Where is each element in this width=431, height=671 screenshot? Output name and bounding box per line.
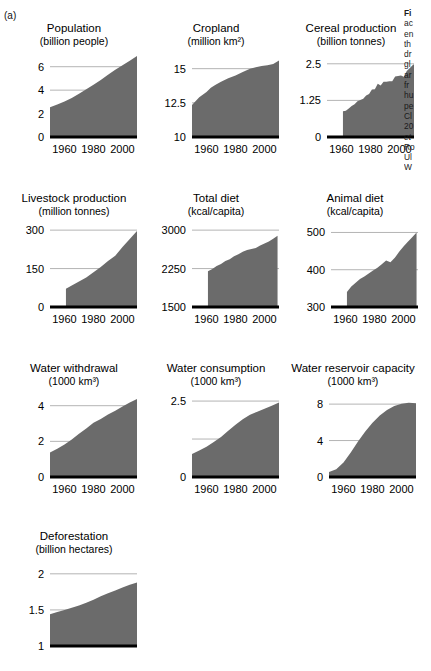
y-tick-label: 3000: [162, 224, 186, 236]
x-tick-label: 2000: [110, 143, 134, 155]
chart-subtitle: (1000 km³): [4, 375, 144, 387]
chart-livestock-production: Livestock production (million tonnes) 01…: [4, 192, 144, 329]
y-tick-label: 2.5: [171, 395, 186, 407]
chart-population: Population (billion people) 024619601980…: [4, 22, 144, 159]
x-tick-label: 1960: [194, 313, 218, 325]
caption-line: hu: [404, 90, 431, 100]
chart-title: Water consumption: [146, 362, 286, 375]
area-series: [50, 582, 137, 646]
chart-title: Deforestation: [4, 530, 144, 543]
y-tick-label: 1.5: [29, 604, 44, 616]
plot-area: 048196019802000: [283, 387, 423, 499]
y-tick-label: 4: [38, 84, 44, 96]
y-tick-label: 150: [26, 263, 44, 275]
y-tick-label: 2: [38, 435, 44, 447]
chart-title: Cropland: [146, 22, 286, 35]
y-tick-label: 400: [307, 264, 325, 276]
chart-svg: 0150300196019802000: [4, 217, 144, 329]
chart-subtitle: (billion hectares): [4, 543, 144, 555]
plot-area: 1012.515196019802000: [146, 47, 286, 159]
chart-title: Animal diet: [285, 192, 425, 205]
chart-subtitle: (million km²): [146, 35, 286, 47]
caption-line: W: [404, 162, 431, 172]
y-tick-label: 6: [38, 61, 44, 73]
chart-subtitle: (1000 km³): [146, 375, 286, 387]
caption-line: ac: [404, 18, 431, 28]
y-tick-label: 0: [317, 471, 323, 483]
chart-subtitle: (billion tonnes): [281, 35, 421, 47]
x-tick-label: 1960: [194, 143, 218, 155]
chart-title: Water reservoir capacity: [283, 362, 423, 375]
y-tick-label: 2.5: [306, 58, 321, 70]
x-tick-label: 2000: [252, 313, 276, 325]
chart-subtitle: (kcal/capita): [146, 205, 286, 217]
y-tick-label: 0: [38, 471, 44, 483]
plot-area: 02.5196019802000: [146, 387, 286, 499]
x-tick-label: 1980: [81, 313, 105, 325]
chart-svg: 1012.515196019802000: [146, 47, 286, 159]
chart-subtitle: (kcal/capita): [285, 205, 425, 217]
chart-title: Population: [4, 22, 144, 35]
x-tick-label: 1980: [362, 313, 386, 325]
area-series: [192, 403, 279, 477]
y-tick-label: 300: [26, 224, 44, 236]
caption-line: gl: [404, 59, 431, 69]
chart-cereal-production: Cereal production (billion tonnes) 01.25…: [281, 22, 421, 159]
chart-deforestation: Deforestation (billion hectares) 11.52: [4, 530, 144, 650]
caption-line: pe: [404, 101, 431, 111]
chart-cropland: Cropland (million km²) 1012.515196019802…: [146, 22, 286, 159]
area-series: [208, 236, 278, 307]
caption-line: th: [404, 39, 431, 49]
y-tick-label: 0: [180, 471, 186, 483]
caption-line: 20: [404, 121, 431, 131]
y-tick-label: 0: [38, 301, 44, 313]
caption-line: en: [404, 29, 431, 39]
x-tick-label: 2000: [389, 483, 413, 495]
x-tick-label: 1960: [52, 143, 76, 155]
y-tick-label: 2250: [162, 263, 186, 275]
y-tick-label: 0: [38, 131, 44, 143]
y-tick-label: 1500: [162, 301, 186, 313]
chart-title: Cereal production: [281, 22, 421, 35]
chart-svg: 0246196019802000: [4, 47, 144, 159]
area-series: [329, 403, 416, 477]
chart-title: Total diet: [146, 192, 286, 205]
caption-line: Cl: [404, 111, 431, 121]
caption-line: fr: [404, 80, 431, 90]
chart-title: Water withdrawal: [4, 362, 144, 375]
chart-total-diet: Total diet (kcal/capita) 150022503000196…: [146, 192, 286, 329]
caption-line: Fi: [404, 8, 431, 18]
y-tick-label: 15: [174, 63, 186, 75]
x-tick-label: 2000: [252, 143, 276, 155]
chart-svg: 02.5196019802000: [146, 387, 286, 499]
chart-water-consumption: Water consumption (1000 km³) 02.51960198…: [146, 362, 286, 499]
chart-svg: 300400500196019802000: [285, 217, 425, 329]
y-tick-label: 4: [38, 400, 44, 412]
area-series: [50, 56, 137, 137]
x-tick-label: 1980: [223, 143, 247, 155]
x-tick-label: 1960: [331, 483, 355, 495]
y-tick-label: 10: [174, 131, 186, 143]
chart-subtitle: (1000 km³): [283, 375, 423, 387]
caption-line: Ul: [404, 152, 431, 162]
x-tick-label: 1980: [81, 143, 105, 155]
y-tick-label: 8: [317, 398, 323, 410]
x-tick-label: 1960: [52, 313, 76, 325]
x-tick-label: 2000: [252, 483, 276, 495]
figure-root: (a) Population (billion people) 02461960…: [0, 0, 431, 671]
plot-area: 01.252.5196019802000: [281, 47, 421, 159]
area-series: [50, 399, 137, 477]
chart-water-reservoir-capacity: Water reservoir capacity (1000 km³) 0481…: [283, 362, 423, 499]
x-tick-label: 2000: [391, 313, 415, 325]
x-tick-label: 2000: [110, 483, 134, 495]
x-tick-label: 2000: [110, 313, 134, 325]
caption-line: dr: [404, 49, 431, 59]
chart-svg: 11.52: [4, 555, 144, 650]
chart-svg: 048196019802000: [283, 387, 423, 499]
plot-area: 150022503000196019802000: [146, 217, 286, 329]
y-tick-label: 0: [315, 131, 321, 143]
plot-area: 0150300196019802000: [4, 217, 144, 329]
y-tick-label: 300: [307, 301, 325, 313]
caption-line: ar: [404, 70, 431, 80]
caption-line: Ro: [404, 142, 431, 152]
